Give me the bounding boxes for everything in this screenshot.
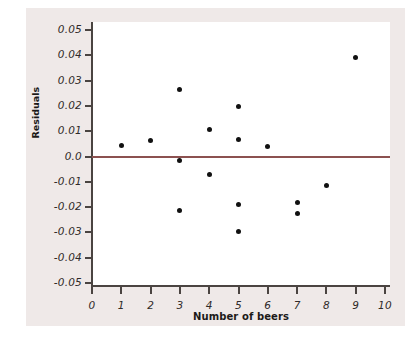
data-point — [119, 143, 124, 148]
x-tick-label: 9 — [352, 299, 359, 311]
y-tick-label: 0.04 — [58, 48, 82, 60]
x-tick-label: 1 — [118, 299, 125, 311]
y-tick — [85, 29, 91, 31]
y-tick — [85, 257, 91, 259]
y-tick — [85, 231, 91, 233]
x-tick-label: 10 — [378, 299, 392, 311]
x-tick-label: 4 — [206, 299, 213, 311]
y-tick-label: -0.05 — [54, 276, 82, 288]
y-tick-label: -0.03 — [54, 225, 82, 237]
x-tick-label: 5 — [235, 299, 242, 311]
x-tick-label: 2 — [147, 299, 154, 311]
x-axis-line — [91, 285, 390, 287]
plot-canvas — [92, 22, 390, 285]
y-tick-label: 0.02 — [58, 99, 82, 111]
y-tick-label: 0.05 — [58, 23, 82, 35]
data-point — [324, 183, 329, 188]
y-tick — [85, 105, 91, 107]
x-tick-label: 0 — [89, 299, 96, 311]
zero-reference-line — [92, 156, 390, 158]
y-tick-label: -0.02 — [54, 200, 82, 212]
data-point — [236, 229, 241, 234]
x-tick — [267, 287, 269, 294]
x-tick — [208, 287, 210, 294]
x-tick — [91, 287, 93, 294]
y-tick — [85, 206, 91, 208]
y-tick — [85, 130, 91, 132]
residual-plot-figure: 0.050.040.030.020.010.0-0.01-0.02-0.03-0… — [0, 0, 413, 347]
data-point — [353, 55, 358, 60]
data-point — [295, 200, 300, 205]
y-tick-label: -0.04 — [54, 251, 82, 263]
x-tick — [150, 287, 152, 294]
y-tick-label: -0.01 — [54, 175, 82, 187]
y-tick — [85, 181, 91, 183]
x-tick — [179, 287, 181, 294]
data-point — [236, 137, 241, 142]
x-tick — [384, 287, 386, 294]
data-point — [207, 127, 212, 132]
x-tick — [238, 287, 240, 294]
y-axis-title: Residuals — [30, 121, 41, 139]
y-tick-label: 0.01 — [58, 124, 82, 136]
x-tick — [120, 287, 122, 294]
x-tick-label: 7 — [294, 299, 301, 311]
x-tick — [355, 287, 357, 294]
y-axis-line — [91, 22, 93, 287]
x-tick-label: 8 — [323, 299, 330, 311]
x-tick — [325, 287, 327, 294]
y-tick — [85, 282, 91, 284]
y-tick-label: 0.03 — [58, 74, 82, 86]
x-tick — [296, 287, 298, 294]
y-tick — [85, 80, 91, 82]
x-tick-label: 3 — [176, 299, 183, 311]
x-axis-title: Number of beers — [92, 311, 390, 322]
y-tick — [85, 156, 91, 158]
data-point — [295, 211, 300, 216]
y-tick-label: 0.0 — [65, 150, 82, 162]
y-tick — [85, 54, 91, 56]
data-point — [207, 172, 212, 177]
x-tick-label: 6 — [264, 299, 271, 311]
